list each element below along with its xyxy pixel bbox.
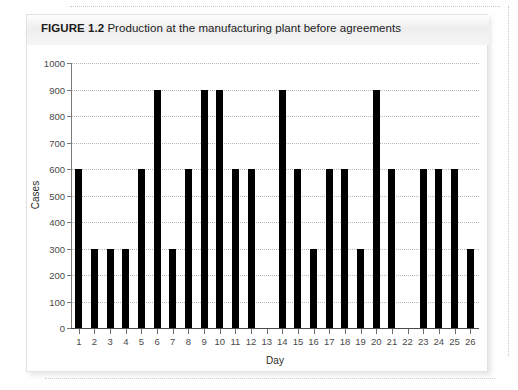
bar [122,249,129,329]
x-tick-mark [126,329,127,334]
x-tick-label: 3 [107,336,112,347]
x-tick-mark [251,329,252,334]
figure-number: FIGURE 1.2 [41,22,104,34]
x-tick-mark [423,329,424,334]
x-tick-mark [439,329,440,334]
bar [248,169,255,328]
x-tick-mark [314,329,315,334]
y-tick-label: 200 [49,270,65,281]
x-tick-label: 18 [340,336,351,347]
x-tick-mark [345,329,346,334]
x-tick-mark [157,329,158,334]
y-tick-label: 800 [49,111,65,122]
bar [294,169,301,328]
x-axis-title: Day [266,355,284,366]
x-tick-label: 26 [465,336,476,347]
x-tick-mark [173,329,174,334]
x-tick-label: 2 [92,336,97,347]
bar [388,169,395,328]
x-tick-label: 13 [261,336,272,347]
x-tick-mark [361,329,362,334]
x-tick-label: 19 [355,336,366,347]
y-tick-label: 600 [49,164,65,175]
x-tick-mark [220,329,221,334]
x-tick-label: 8 [186,336,191,347]
x-tick-mark [94,329,95,334]
x-tick-mark [298,329,299,334]
x-tick-label: 12 [246,336,257,347]
bar [326,169,333,328]
page-edge-bottom [45,378,495,380]
x-tick-label: 21 [387,336,398,347]
y-tick-mark [67,328,71,329]
x-tick-label: 25 [449,336,460,347]
bar [169,249,176,329]
bar [185,169,192,328]
bar [216,90,223,329]
x-tick-label: 10 [214,336,225,347]
bar [154,90,161,329]
x-tick-label: 6 [154,336,159,347]
y-tick-label: 300 [49,243,65,254]
x-tick-mark [282,329,283,334]
x-tick-label: 20 [371,336,382,347]
bar [341,169,348,328]
x-tick-mark [204,329,205,334]
figure-card: FIGURE 1.2 Production at the manufacturi… [26,14,488,372]
x-tick-mark [408,329,409,334]
y-tick-label: 400 [49,217,65,228]
figure-caption-text: Production at the manufacturing plant be… [107,22,401,34]
bar [138,169,145,328]
x-tick-mark [110,329,111,334]
x-tick-mark [188,329,189,334]
x-tick-mark [455,329,456,334]
x-tick-label: 16 [308,336,319,347]
x-tick-mark [470,329,471,334]
bar-series [71,63,478,328]
bar [201,90,208,329]
x-tick-label: 11 [230,336,240,347]
chart-plot-area: 01002003004005006007008009001000 Cases 1… [71,63,478,328]
bar [91,249,98,329]
x-tick-label: 23 [418,336,429,347]
x-tick-mark [141,329,142,334]
x-tick-mark [376,329,377,334]
x-tick-label: 4 [123,336,128,347]
bar [435,169,442,328]
page-edge-right [508,6,510,356]
bar [420,169,427,328]
bar [357,249,364,329]
x-tick-mark [235,329,236,334]
figure-screenshot: FIGURE 1.2 Production at the manufacturi… [0,0,518,390]
x-tick-mark [329,329,330,334]
x-tick-mark [392,329,393,334]
x-tick-label: 24 [434,336,445,347]
x-tick-label: 22 [402,336,413,347]
bar [451,169,458,328]
bar [232,169,239,328]
y-axis-title: Cases [30,181,41,209]
bar [310,249,317,329]
x-tick-label: 15 [293,336,304,347]
bar [467,249,474,329]
x-tick-label: 7 [170,336,175,347]
x-axis-line [71,328,479,329]
y-tick-label: 0 [60,323,65,334]
x-tick-mark [267,329,268,334]
x-tick-label: 14 [277,336,288,347]
bar [107,249,114,329]
x-tick-label: 17 [324,336,335,347]
y-tick-label: 500 [49,190,65,201]
page-edge-top [70,6,500,8]
y-tick-label: 100 [49,296,65,307]
x-tick-mark [79,329,80,334]
x-tick-label: 1 [76,336,81,347]
bar [279,90,286,329]
figure-caption: FIGURE 1.2 Production at the manufacturi… [41,22,401,34]
y-tick-label: 700 [49,137,65,148]
y-tick-label: 900 [49,84,65,95]
x-tick-label: 9 [201,336,206,347]
x-tick-label: 5 [139,336,144,347]
bar [373,90,380,329]
y-tick-label: 1000 [44,58,65,69]
